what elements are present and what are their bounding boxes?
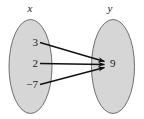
arrow-2-to-9 [40,64,105,65]
domain-element-3: −7 [10,79,38,90]
range-element-1: 9 [110,58,132,69]
range-set-label: y [103,3,117,14]
mapping-diagram: x y 3 2 −7 9 [0,0,144,119]
domain-element-1: 3 [14,37,38,48]
domain-element-2: 2 [14,58,38,69]
domain-set-label: x [23,3,37,14]
